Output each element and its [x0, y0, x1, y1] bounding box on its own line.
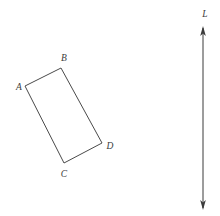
vertex-label-c: C	[61, 169, 68, 179]
figure-svg: A B C D L	[0, 0, 220, 216]
geometry-figure: A B C D L	[0, 0, 220, 216]
line-label-l: L	[201, 9, 207, 19]
vertex-label-d: D	[106, 141, 114, 151]
rectangle-abcd-outline	[25, 68, 102, 163]
vertex-label-a: A	[15, 82, 22, 92]
vertex-label-b: B	[61, 53, 67, 63]
